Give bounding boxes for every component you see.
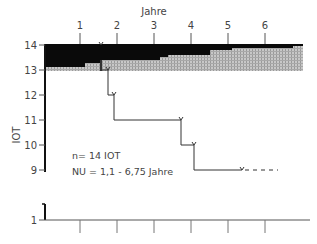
x-tick-label: 3 <box>151 20 157 31</box>
y-axis-title: IOT <box>11 126 22 144</box>
annotation-nu: NU = 1,1 - 6,75 Jahre <box>72 166 173 177</box>
x-tick-label: 5 <box>225 20 231 31</box>
annotation-n: n= 14 IOT <box>72 150 120 161</box>
x-tick-label: 2 <box>114 20 120 31</box>
y-tick-label: 10 <box>24 140 37 151</box>
y-tick-label: 13 <box>24 65 37 76</box>
x-axis-top: 1 2 3 4 5 6 <box>77 20 268 45</box>
y-tick-label: 11 <box>24 115 37 126</box>
x-tick-label: 1 <box>77 20 83 31</box>
survival-step-chart: Jahre 1 2 3 4 5 6 14 1 <box>0 0 317 244</box>
x-axis-bottom: 1 <box>31 204 310 233</box>
y-axis: 14 13 12 11 10 9 <box>24 40 45 176</box>
x-axis-title: Jahre <box>140 6 166 17</box>
y-tick-label: 12 <box>24 90 37 101</box>
x-tick-label: 4 <box>188 20 194 31</box>
band-notch <box>100 60 102 71</box>
y-tick-label: 14 <box>24 40 37 51</box>
y-tick-label-bottom: 1 <box>31 215 37 226</box>
y-tick-label: 9 <box>31 165 37 176</box>
x-tick-label: 6 <box>262 20 268 31</box>
step-curve <box>101 70 278 170</box>
